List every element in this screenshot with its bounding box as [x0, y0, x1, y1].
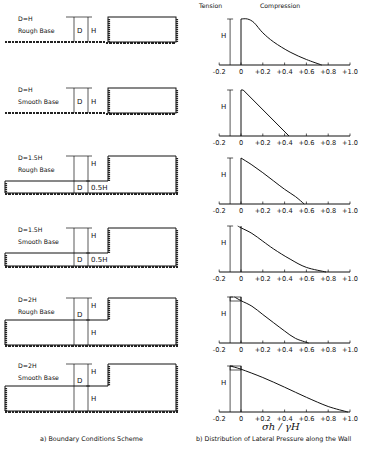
x-tick-label: -0.2	[213, 275, 226, 283]
x-tick-label: 0	[239, 346, 243, 354]
x-tick-label: -0.2	[213, 139, 226, 147]
x-tick-label: +0.2	[255, 207, 271, 215]
d-label: D	[77, 311, 82, 319]
pressure-plot-1: -0.20+0.2+0.4+0.6+0.8+1.0H	[213, 19, 358, 76]
depth-label: D=1.5H	[18, 226, 43, 233]
boundary-case-6: D=2HSmooth BaseDHH	[5, 362, 178, 412]
x-tick-label: +1.0	[342, 139, 358, 147]
x-tick-label: +0.6	[298, 207, 314, 215]
pressure-plot-4: -0.20+0.2+0.4+0.6+0.8+1.0H	[213, 226, 358, 283]
pressure-curve	[241, 19, 322, 65]
x-tick-label: -0.2	[213, 415, 226, 423]
x-tick-label: +0.8	[320, 207, 336, 215]
boundary-case-1: D=HRough BaseDH	[5, 15, 177, 43]
base-type-label: Smooth Base	[18, 98, 59, 105]
x-tick-label: 0	[239, 415, 243, 423]
x-tick-label: +0.6	[298, 139, 314, 147]
x-tick-label: +0.6	[298, 68, 314, 76]
x-tick-label: -0.2	[213, 346, 226, 354]
x-tick-label: +0.6	[298, 415, 314, 423]
excavation-box	[108, 17, 176, 42]
tension-label: Tension	[198, 2, 222, 9]
x-tick-label: +0.4	[277, 139, 293, 147]
boundary-case-3: D=1.5HRough BaseDH0.5H	[5, 154, 178, 194]
d-label: D	[77, 256, 82, 264]
x-tick-label: +0.2	[255, 346, 271, 354]
height-label: H	[221, 310, 226, 318]
lateral-pressure-panel: -0.20+0.2+0.4+0.6+0.8+1.0H-0.20+0.2+0.4+…	[213, 19, 358, 423]
x-tick-label: 0	[239, 139, 243, 147]
depth-label: D=H	[18, 86, 33, 93]
x-tick-label: -0.2	[213, 207, 226, 215]
extra-depth-label: H	[91, 395, 96, 403]
x-tick-label: +0.8	[320, 415, 336, 423]
d-label: D	[77, 98, 82, 106]
boundary-case-5: D=2HRough BaseDHH	[5, 296, 178, 346]
caption-b: b) Distribution of Lateral Pressure alon…	[196, 435, 352, 443]
x-tick-label: +0.8	[320, 68, 336, 76]
pressure-curve	[241, 90, 289, 136]
extra-depth-label: 0.5H	[91, 256, 107, 264]
pressure-plot-3: -0.20+0.2+0.4+0.6+0.8+1.0H	[213, 158, 358, 215]
extra-depth-label: 0.5H	[91, 184, 107, 192]
x-tick-label: +0.4	[277, 346, 293, 354]
h-label: H	[91, 160, 96, 168]
x-tick-label: +1.0	[342, 346, 358, 354]
pressure-plot-2: -0.20+0.2+0.4+0.6+0.8+1.0H	[213, 90, 358, 147]
x-tick-label: +1.0	[342, 415, 358, 423]
boundary-case-4: D=1.5HSmooth BaseDH0.5H	[5, 226, 178, 267]
height-label: H	[221, 103, 226, 111]
boundary-conditions-panel: D=HRough BaseDHD=HSmooth BaseDHD=1.5HRou…	[5, 15, 178, 412]
x-axis-label: σh / γH	[262, 421, 300, 432]
pressure-curve	[234, 297, 308, 343]
pressure-curve	[238, 226, 326, 272]
d-label: D	[77, 27, 82, 35]
base-type-label: Rough Base	[18, 308, 55, 316]
depth-label: D=1.5H	[18, 154, 43, 161]
x-tick-label: 0	[239, 207, 243, 215]
x-tick-label: 0	[239, 275, 243, 283]
d-label: D	[77, 184, 82, 192]
h-label: H	[91, 232, 96, 240]
x-tick-label: +0.4	[277, 275, 293, 283]
x-tick-label: +1.0	[342, 68, 358, 76]
x-tick-label: -0.2	[213, 68, 226, 76]
pressure-curve	[241, 158, 304, 204]
base-type-label: Rough Base	[18, 166, 55, 174]
base-type-label: Rough Base	[18, 27, 55, 35]
compression-label: Compression	[260, 2, 300, 10]
excavation-box	[108, 88, 176, 113]
pressure-plot-5: -0.20+0.2+0.4+0.6+0.8+1.0H	[213, 297, 358, 354]
x-tick-label: +0.6	[298, 346, 314, 354]
depth-label: D=H	[18, 15, 33, 22]
figure-canvas: D=HRough BaseDHD=HSmooth BaseDHD=1.5HRou…	[0, 0, 366, 453]
pressure-curve	[230, 366, 348, 412]
x-tick-label: +0.8	[320, 346, 336, 354]
x-tick-label: +0.2	[255, 275, 271, 283]
h-label: H	[91, 302, 96, 310]
x-tick-label: +0.8	[320, 275, 336, 283]
x-tick-label: +0.6	[298, 275, 314, 283]
x-tick-label: +0.4	[277, 207, 293, 215]
height-label: H	[221, 32, 226, 40]
x-tick-label: +0.4	[277, 68, 293, 76]
h-label: H	[91, 368, 96, 376]
x-tick-label: +0.8	[320, 139, 336, 147]
boundary-case-2: D=HSmooth BaseDH	[5, 86, 177, 114]
pressure-plot-6: -0.20+0.2+0.4+0.6+0.8+1.0H	[213, 366, 358, 423]
h-label: H	[91, 98, 96, 106]
x-tick-label: +1.0	[342, 207, 358, 215]
x-tick-label: 0	[239, 68, 243, 76]
height-label: H	[221, 379, 226, 387]
d-label: D	[77, 377, 82, 385]
h-label: H	[91, 27, 96, 35]
extra-depth-label: H	[91, 329, 96, 337]
caption-a: a) Boundary Conditions Scheme	[40, 435, 143, 443]
height-label: H	[221, 239, 226, 247]
height-label: H	[221, 171, 226, 179]
depth-label: D=2H	[18, 362, 37, 369]
depth-label: D=2H	[18, 296, 37, 303]
x-tick-label: +1.0	[342, 275, 358, 283]
x-tick-label: +0.2	[255, 139, 271, 147]
base-type-label: Smooth Base	[18, 374, 59, 381]
